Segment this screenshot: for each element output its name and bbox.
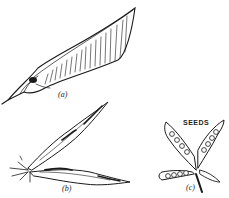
pea-pod-figure: (a) (b) (c) SEEDS — [0, 0, 229, 198]
seeds-annotation: SEEDS — [183, 119, 209, 126]
panel-a-label: (a) — [58, 91, 67, 99]
panel-b-label: (b) — [62, 185, 71, 193]
open-pod-seeds-drawing — [0, 0, 229, 198]
panel-c-label: (c) — [186, 184, 195, 192]
